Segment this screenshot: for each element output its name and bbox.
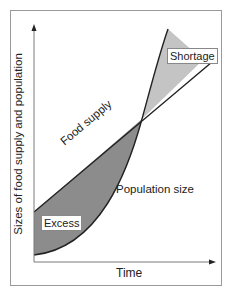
diagram-canvas [0,0,230,294]
x-axis-label: Time [116,266,142,280]
y-axis-label: Sizes of food supply and population [12,53,24,235]
population-size-label: Population size [116,183,194,195]
y-axis-arrow-icon [32,24,37,31]
shortage-label: Shortage [167,48,218,64]
excess-label: Excess [41,215,82,231]
x-axis-arrow-icon [209,260,216,265]
shortage-region [142,29,203,119]
